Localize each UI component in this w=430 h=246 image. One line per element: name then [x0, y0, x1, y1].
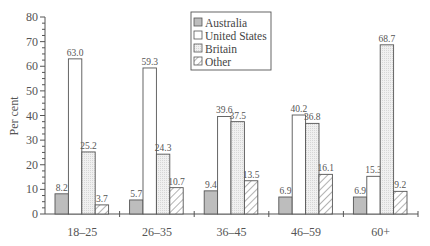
bar-value-label: 25.2 [80, 141, 97, 151]
bar-other [170, 188, 183, 214]
bar-united-states [367, 176, 380, 214]
y-tick-label: 60 [26, 59, 38, 73]
bar-value-label: 6.9 [280, 186, 292, 196]
bar-australia [353, 197, 366, 214]
bar-australia [55, 194, 68, 214]
bar-australia [279, 197, 292, 214]
bar-value-label: 3.7 [96, 194, 108, 204]
bar-united-states [68, 59, 81, 214]
legend-swatch-australia [194, 18, 202, 26]
legend: AustraliaUnited StatesBritainOther [191, 12, 271, 70]
y-axis-label: Per cent [7, 96, 21, 136]
bar-value-label: 6.9 [354, 186, 366, 196]
x-category-label: 26–35 [142, 225, 172, 239]
x-category-label: 46–59 [291, 225, 321, 239]
bar-value-label: 37.5 [229, 111, 246, 121]
legend-swatch-britain [194, 44, 202, 52]
bar-value-label: 9.4 [205, 180, 217, 190]
bar-value-label: 9.2 [394, 180, 406, 190]
bar-other [394, 191, 407, 214]
y-tick-label: 70 [26, 35, 38, 49]
bar-united-states [143, 68, 156, 214]
bar-britain [380, 45, 393, 214]
bar-value-label: 13.5 [243, 170, 260, 180]
y-tick-label: 40 [26, 109, 38, 123]
bar-value-label: 36.8 [304, 112, 321, 122]
y-tick-label: 10 [26, 182, 38, 196]
bar-united-states [218, 116, 231, 214]
x-category-label: 36–45 [217, 225, 247, 239]
bar-value-label: 24.3 [155, 143, 172, 153]
legend-swatch-other [194, 57, 202, 65]
bar-britain [82, 152, 95, 214]
legend-label: Other [205, 56, 231, 68]
y-tick-label: 50 [26, 84, 38, 98]
bar-britain [231, 122, 244, 214]
legend-label: United States [205, 30, 267, 42]
bar-value-label: 8.2 [56, 183, 68, 193]
legend-label: Britain [205, 43, 237, 55]
bar-australia [130, 200, 143, 214]
bar-value-label: 15.3 [365, 165, 382, 175]
bar-value-label: 5.7 [130, 189, 142, 199]
bar-chart: 01020304050607080Per cent18–2526–3536–45… [0, 0, 430, 246]
legend-swatch-united-states [194, 31, 202, 39]
bar-value-label: 10.7 [168, 177, 185, 187]
bar-value-label: 59.3 [141, 57, 158, 67]
x-category-label: 18–25 [67, 225, 97, 239]
bar-value-label: 63.0 [67, 48, 84, 58]
bar-other [244, 181, 257, 214]
y-tick-label: 80 [26, 10, 38, 24]
bar-value-label: 68.7 [379, 34, 396, 44]
legend-label: Australia [205, 17, 247, 29]
bar-other [319, 174, 332, 214]
y-tick-label: 0 [32, 207, 38, 221]
y-tick-label: 20 [26, 158, 38, 172]
x-category-label: 60+ [371, 225, 390, 239]
bar-united-states [292, 115, 305, 214]
y-tick-label: 30 [26, 133, 38, 147]
bar-australia [204, 191, 217, 214]
bar-value-label: 16.1 [317, 163, 334, 173]
bar-other [95, 205, 108, 214]
